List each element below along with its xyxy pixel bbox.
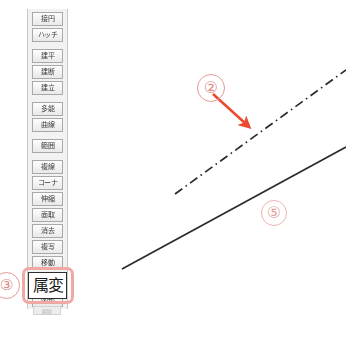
toolbar-button-hani[interactable]: 範囲	[32, 139, 63, 153]
toolbar-button-shinshuku[interactable]: 伸縮	[32, 192, 63, 206]
toolbar-group-curve: 多能 曲線	[28, 101, 67, 133]
toolbar-button-mentori[interactable]: 面取	[32, 208, 63, 222]
toolbar-button-idou[interactable]: 移動	[32, 256, 63, 270]
toolbar-button-corner[interactable]: コーナ	[32, 176, 63, 190]
attribute-change-button[interactable]: 属変	[28, 272, 67, 299]
toolbar-group-construct: 建平 建断 建立	[28, 48, 67, 96]
toolbar-button-kyokusen[interactable]: 曲線	[32, 118, 63, 132]
toolbar-button-hatch[interactable]: ハッチ	[32, 28, 63, 42]
annotation-marker-5: ⑤	[261, 200, 287, 226]
screenshot-root: 接円 ハッチ 建平 建断 建立 多能 曲線 範囲 複線 コーナ 伸縮 面取 消去…	[0, 0, 346, 338]
toolbar-group-range: 範囲	[28, 138, 67, 154]
toolbar-button-zokutori[interactable]: 属取	[33, 306, 61, 315]
toolbar-button-tanou[interactable]: 多能	[32, 102, 63, 116]
toolbar-button-fukusha[interactable]: 複写	[32, 240, 63, 254]
cad-command-toolbar[interactable]: 接円 ハッチ 建平 建断 建立 多能 曲線 範囲 複線 コーナ 伸縮 面取 消去…	[27, 9, 68, 309]
toolbar-button-tatehei[interactable]: 建平	[32, 49, 63, 63]
toolbar-button-tatedan[interactable]: 建断	[32, 65, 63, 79]
annotation-marker-3: ③	[0, 272, 20, 299]
annotation-marker-2: ②	[197, 74, 225, 102]
toolbar-group-shape: 接円 ハッチ	[28, 11, 67, 43]
toolbar-button-fukusen[interactable]: 複線	[32, 160, 63, 174]
toolbar-button-sessen[interactable]: 接円	[32, 12, 63, 26]
solid-line	[122, 147, 346, 269]
attribute-change-button-label: 属変	[33, 278, 63, 294]
toolbar-button-tateritsu[interactable]: 建立	[32, 81, 63, 95]
toolbar-group-modify: 複線 コーナ 伸縮 面取 消去 複写 移動 戻る	[28, 159, 67, 287]
toolbar-button-shoukyo[interactable]: 消去	[32, 224, 63, 238]
